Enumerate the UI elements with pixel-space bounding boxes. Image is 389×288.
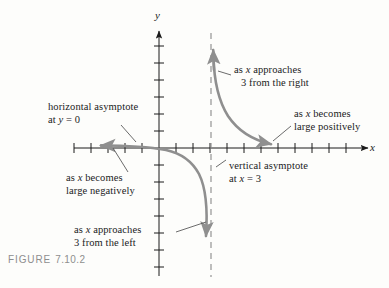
leader-approach-left: [176, 222, 206, 232]
horizontal-asymptote-line2-pre: at: [48, 114, 59, 125]
vertical-asymptote-line2-post: = 3: [244, 173, 261, 184]
large-negatively-line1: as x becomes: [66, 172, 135, 185]
annotation-large-negatively: as x becomes large negatively: [66, 172, 135, 197]
approach-left-line1-post: approaches: [90, 224, 141, 235]
leader-horizontal-asymptote: [121, 125, 136, 142]
vertical-asymptote-line2: at x = 3: [229, 173, 308, 186]
figure-container: y x horizontal asymptote at y = 0 as x a…: [0, 0, 389, 288]
annotation-approach-left: as x approaches 3 from the left: [74, 224, 141, 249]
large-positively-line1: as x becomes: [294, 108, 360, 121]
figure-caption-label: FIGURE: [8, 254, 51, 265]
x-axis-label: x: [370, 141, 375, 153]
figure-caption-number: 7.10.2: [55, 254, 85, 265]
leader-approach-right: [218, 71, 231, 75]
approach-right-line2: 3 from the right: [234, 77, 309, 90]
vertical-asymptote-line2-pre: at: [229, 173, 240, 184]
approach-left-line2: 3 from the left: [74, 237, 141, 250]
large-negatively-line1-post: becomes: [82, 172, 122, 183]
large-positively-line1-post: becomes: [310, 108, 350, 119]
leader-vertical-asymptote: [216, 160, 226, 167]
approach-right-line1-post: approaches: [250, 64, 301, 75]
leader-large-negatively: [113, 148, 128, 172]
y-axis-label: y: [155, 9, 160, 21]
approach-left-line1: as x approaches: [74, 224, 141, 237]
leader-large-positively: [273, 126, 291, 141]
horizontal-asymptote-line2: at y = 0: [48, 114, 138, 127]
annotation-approach-right: as x approaches 3 from the right: [234, 64, 309, 89]
annotation-vertical-asymptote: vertical asymptote at x = 3: [229, 160, 308, 185]
figure-caption: FIGURE7.10.2: [8, 254, 85, 265]
y-axis: [154, 31, 164, 276]
curve-right-arrowhead: [213, 50, 214, 70]
approach-left-line1-pre: as: [74, 224, 86, 235]
vertical-asymptote-line1: vertical asymptote: [229, 160, 308, 173]
annotation-large-positively: as x becomes large positively: [294, 108, 360, 133]
annotation-horizontal-asymptote: horizontal asymptote at y = 0: [48, 101, 138, 126]
horizontal-asymptote-line2-post: = 0: [63, 114, 80, 125]
approach-right-line1: as x approaches: [234, 64, 309, 77]
approach-right-line1-pre: as: [234, 64, 246, 75]
graph-canvas: [0, 0, 389, 288]
large-negatively-line2: large negatively: [66, 185, 135, 198]
horizontal-asymptote-line1: horizontal asymptote: [48, 101, 138, 114]
large-positively-line1-pre: as: [294, 108, 306, 119]
large-positively-line2: large positively: [294, 121, 360, 134]
large-negatively-line1-pre: as: [66, 172, 78, 183]
